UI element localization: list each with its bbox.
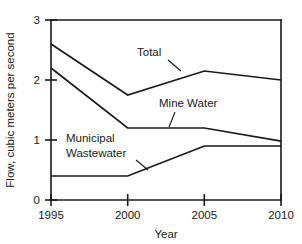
line-chart: 0 1 2 3 1995 2000 2005 2010 Year Flow, c… [0, 0, 302, 244]
x-tick-label-2010: 2010 [268, 209, 294, 221]
x-tick-label-1995: 1995 [38, 209, 64, 221]
series-label-wastewater: Wastewater [66, 147, 126, 159]
x-axis-title: Year [154, 228, 177, 240]
x-tick-label-2005: 2005 [192, 209, 218, 221]
chart-axes [51, 20, 281, 200]
leader-line-total [168, 60, 181, 71]
series-label-mine-water: Mine Water [159, 97, 218, 109]
leader-line-mine-water [169, 112, 175, 127]
y-tick-label-1: 1 [34, 134, 40, 146]
series-label-total: Total [137, 46, 161, 58]
y-axis-title: Flow, cubic meters per second [4, 32, 16, 187]
series-label-municipal: Municipal [66, 132, 115, 144]
series-line-total [51, 44, 281, 95]
y-tick-label-0: 0 [34, 194, 40, 206]
y-tick-label-3: 3 [34, 14, 40, 26]
chart-canvas: 0 1 2 3 1995 2000 2005 2010 Year Flow, c… [0, 0, 302, 244]
leader-line-municipal-wastewater [136, 160, 148, 170]
y-tick-label-2: 2 [34, 74, 40, 86]
x-tick-label-2000: 2000 [115, 209, 141, 221]
